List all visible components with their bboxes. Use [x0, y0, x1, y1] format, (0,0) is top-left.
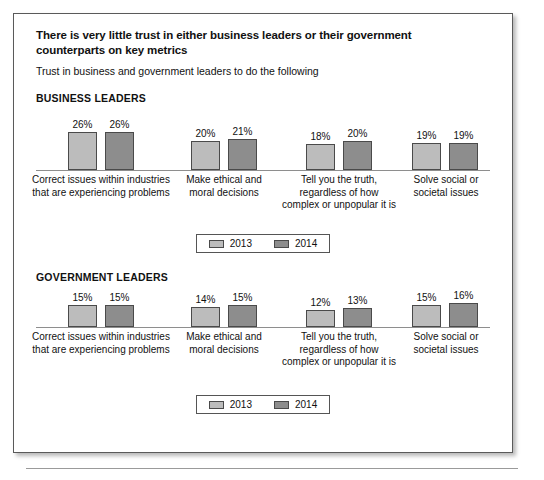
category-label-government-1: Make ethical and moral decisions: [176, 331, 272, 356]
bar-2013: [306, 144, 335, 170]
plot-area-government: 15% 15% 14% 15%: [36, 287, 490, 328]
legend-business: 2013 2014: [196, 234, 331, 253]
bar-2014: [343, 308, 372, 327]
legend-label-2014: 2014: [295, 399, 317, 410]
legend-item-2013[interactable]: 2013: [209, 399, 252, 410]
bar-item-government-0-2013: 15%: [68, 287, 97, 327]
bar-value-label: 26%: [72, 119, 92, 130]
legend-swatch-icon-2014: [274, 240, 289, 248]
bar-value-label: 14%: [195, 294, 215, 305]
bar-value-label: 19%: [453, 130, 473, 141]
legend-row-government: 2013 2014: [36, 395, 490, 414]
bar-value-label: 20%: [195, 128, 215, 139]
bar-2013: [68, 305, 97, 327]
legend-label-2014: 2014: [295, 238, 317, 249]
category-label-government-2: Tell you the truth, regardless of how co…: [282, 331, 396, 369]
bar-item-government-2-2014: 13%: [343, 287, 372, 327]
chart-government-leaders: 15% 15% 14% 15%: [36, 287, 490, 414]
bar-group-business-3: 19% 19%: [398, 108, 492, 170]
legend-label-2013: 2013: [230, 399, 252, 410]
bar-item-business-1-2014: 21%: [228, 108, 257, 170]
plot-area-business: 26% 26% 20% 21%: [36, 108, 490, 171]
bar-item-business-2-2013: 18%: [306, 108, 335, 170]
bar-value-label: 26%: [109, 119, 129, 130]
chart-business-leaders: 26% 26% 20% 21%: [36, 108, 490, 253]
bar-item-business-1-2013: 20%: [191, 108, 220, 170]
bar-group-government-3: 15% 16%: [398, 287, 492, 327]
bar-value-label: 21%: [232, 126, 252, 137]
bar-item-government-1-2013: 14%: [191, 287, 220, 327]
bar-item-government-3-2013: 15%: [412, 287, 441, 327]
bar-group-business-0: 26% 26%: [36, 108, 166, 170]
legend-row-business: 2013 2014: [36, 234, 490, 253]
legend-swatch-icon-2014: [274, 401, 289, 409]
bar-group-government-2: 12% 13%: [280, 287, 398, 327]
bar-value-label: 15%: [72, 292, 92, 303]
bar-item-government-3-2014: 16%: [449, 287, 478, 327]
bar-group-government-0: 15% 15%: [36, 287, 166, 327]
category-labels-government: Correct issues within industries that ar…: [36, 331, 490, 389]
bar-value-label: 18%: [310, 131, 330, 142]
bar-2013: [191, 307, 220, 327]
bar-2014: [105, 305, 134, 327]
bar-2013: [191, 141, 220, 170]
bar-item-government-0-2014: 15%: [105, 287, 134, 327]
bar-group-business-1: 20% 21%: [168, 108, 280, 170]
page-title: There is very little trust in either bus…: [36, 28, 466, 57]
category-label-business-1: Make ethical and moral decisions: [176, 174, 272, 199]
bar-value-label: 20%: [347, 128, 367, 139]
legend-government: 2013 2014: [196, 395, 331, 414]
legend-item-2013[interactable]: 2013: [209, 238, 252, 249]
bar-2014: [105, 132, 134, 170]
category-label-government-3: Solve social or societal issues: [400, 331, 492, 356]
chart-card: There is very little trust in either bus…: [13, 13, 513, 453]
bar-2013: [68, 132, 97, 170]
bar-2013: [412, 305, 441, 327]
bar-value-label: 16%: [453, 290, 473, 301]
section-heading-government: GOVERNMENT LEADERS: [36, 271, 490, 283]
bar-item-business-3-2014: 19%: [449, 108, 478, 170]
page-subtitle: Trust in business and government leaders…: [36, 65, 490, 78]
category-label-business-2: Tell you the truth, regardless of how co…: [282, 174, 396, 212]
legend-swatch-icon-2013: [209, 401, 224, 409]
category-label-government-0: Correct issues within industries that ar…: [30, 331, 172, 356]
bar-item-business-2-2014: 20%: [343, 108, 372, 170]
bar-2014: [228, 305, 257, 327]
card-content: There is very little trust in either bus…: [14, 14, 512, 414]
bar-2013: [412, 143, 441, 170]
bottom-divider: [26, 468, 518, 469]
legend-item-2014[interactable]: 2014: [274, 399, 317, 410]
legend-swatch-icon-2013: [209, 240, 224, 248]
bar-2014: [343, 141, 372, 170]
bar-value-label: 12%: [310, 297, 330, 308]
section-heading-business: BUSINESS LEADERS: [36, 92, 490, 104]
bar-value-label: 13%: [347, 295, 367, 306]
bar-2014: [449, 303, 478, 327]
bar-value-label: 15%: [416, 292, 436, 303]
legend-item-2014[interactable]: 2014: [274, 238, 317, 249]
bar-value-label: 19%: [416, 130, 436, 141]
bar-2013: [306, 310, 335, 327]
bar-item-government-2-2013: 12%: [306, 287, 335, 327]
bar-2014: [449, 143, 478, 170]
category-labels-business: Correct issues within industries that ar…: [36, 174, 490, 232]
bar-2014: [228, 139, 257, 170]
bar-group-business-2: 18% 20%: [280, 108, 398, 170]
category-label-business-0: Correct issues within industries that ar…: [30, 174, 172, 199]
legend-label-2013: 2013: [230, 238, 252, 249]
bar-item-business-3-2013: 19%: [412, 108, 441, 170]
bar-item-business-0-2013: 26%: [68, 108, 97, 170]
bar-value-label: 15%: [232, 292, 252, 303]
bar-value-label: 15%: [109, 292, 129, 303]
category-label-business-3: Solve social or societal issues: [400, 174, 492, 199]
bar-item-business-0-2014: 26%: [105, 108, 134, 170]
bar-item-government-1-2014: 15%: [228, 287, 257, 327]
bar-group-government-1: 14% 15%: [168, 287, 280, 327]
